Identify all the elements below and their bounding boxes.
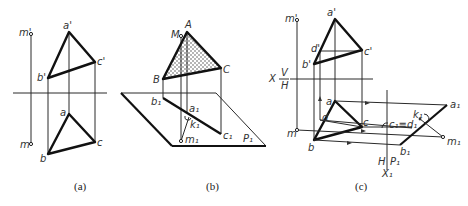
label-a: a <box>326 96 332 107</box>
label-d-prime: d' <box>311 43 320 54</box>
descriptive-geometry-figure: m' a' c' b' a c b m (a) A M C B b₁ a₁ k₁… <box>0 0 468 206</box>
label-b: b <box>308 142 314 153</box>
caption-c: (c) <box>355 180 368 193</box>
label-a1: a₁ <box>450 99 460 110</box>
triangle-front-view <box>48 32 95 78</box>
caption-b: (b) <box>206 180 219 193</box>
label-H-aux: H <box>378 156 386 167</box>
label-m: m <box>20 139 30 150</box>
label-c: c <box>97 137 103 148</box>
plane-p1-front-edge <box>121 93 172 146</box>
label-b1: b₁ <box>400 146 410 157</box>
point-m1 <box>179 139 182 142</box>
label-c: c <box>363 117 369 128</box>
label-a: a <box>60 107 66 118</box>
point-m <box>29 142 32 145</box>
arrow-d <box>318 96 322 101</box>
label-c-prime: c' <box>364 46 372 57</box>
label-k1: k₁ <box>413 109 423 120</box>
label-c1-d1: c₁≡d₁ <box>389 119 417 130</box>
figure-c: m' a' d' c' b' X V H a d c b m c₁≡d₁ k₁ … <box>268 7 461 193</box>
figure-b: A M C B b₁ a₁ k₁ c₁ m₁ P₁ (b) <box>121 19 266 193</box>
a-to-a1-projector <box>335 101 447 105</box>
label-a1: a₁ <box>189 103 199 114</box>
label-H: H <box>281 80 289 91</box>
label-d: d <box>322 112 329 123</box>
label-X1: X₁ <box>381 168 393 179</box>
label-b-prime: b' <box>37 72 46 83</box>
label-V: V <box>281 67 289 78</box>
label-b-prime: b' <box>302 59 311 70</box>
arrow-m <box>361 129 366 133</box>
label-a-prime: a' <box>63 20 72 31</box>
label-M: M <box>171 29 180 40</box>
label-c-prime: c' <box>97 56 105 67</box>
k1-m1-line <box>420 119 443 137</box>
m-to-m1-projector <box>297 130 443 137</box>
label-P1: P₁ <box>243 133 253 144</box>
triangle-front-view <box>314 19 362 64</box>
label-m1: m₁ <box>447 136 461 147</box>
label-b1: b₁ <box>151 96 161 107</box>
label-B: B <box>153 74 160 85</box>
label-b: b <box>40 153 46 164</box>
triangle-top-view <box>48 114 95 154</box>
figure-a: m' a' c' b' a c b m (a) <box>13 20 107 193</box>
arrow-a <box>365 101 370 105</box>
label-m-prime: m' <box>19 27 32 38</box>
label-a-prime: a' <box>327 7 336 18</box>
caption-a: (a) <box>74 180 87 193</box>
label-m: m <box>287 128 297 139</box>
label-X: X <box>268 73 277 84</box>
label-C: C <box>223 64 230 75</box>
point-m1 <box>441 135 444 138</box>
label-P1: P₁ <box>390 156 400 167</box>
label-A: A <box>184 19 192 30</box>
label-m1: m₁ <box>185 134 199 145</box>
label-c1: c₁ <box>223 130 233 141</box>
point-M <box>179 34 182 37</box>
label-m-prime: m' <box>285 13 298 24</box>
label-k1: k₁ <box>190 119 200 130</box>
